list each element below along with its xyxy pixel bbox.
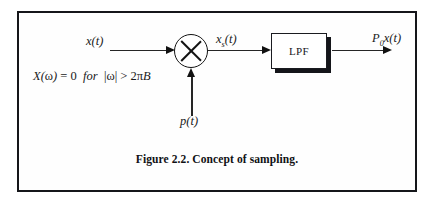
output-signal-label: P0x(t) xyxy=(372,32,401,48)
carrier-signal-label: p(t) xyxy=(180,115,198,128)
sampled-signal-label: xs(t) xyxy=(216,33,237,49)
condition-for: for xyxy=(83,69,98,83)
output-wire xyxy=(332,50,384,51)
input-signal-label: x(t) xyxy=(86,35,103,48)
output-signal-base: P xyxy=(372,31,380,45)
output-signal-tail: x(t) xyxy=(384,31,401,45)
condition-close-paren: ) xyxy=(53,69,57,83)
bandlimit-condition: X(ω) = 0 for |ω| > 2πB xyxy=(33,70,151,83)
mixer-to-lpf-wire xyxy=(208,50,263,51)
lpf-block: LPF xyxy=(271,33,327,69)
input-signal-text: x(t) xyxy=(86,34,103,48)
figure-page: LPF x(t) xs(t) P0x(t) p(t) X(ω) = 0 for … xyxy=(0,0,434,204)
mixer-to-lpf-arrowhead xyxy=(262,46,271,54)
carrier-arrowhead xyxy=(187,68,195,77)
condition-equals: = xyxy=(60,69,67,83)
condition-zero: 0 xyxy=(71,69,77,83)
lpf-label: LPF xyxy=(289,45,309,57)
condition-x-open: X( xyxy=(33,69,45,83)
input-wire xyxy=(110,50,167,51)
multiplier-mixer xyxy=(174,34,208,68)
figure-caption-text: Figure 2.2. Concept of sampling. xyxy=(136,153,298,165)
carrier-signal-text: p(t) xyxy=(180,114,198,128)
condition-greater-than: > xyxy=(120,69,127,83)
condition-abs-omega: ω xyxy=(106,69,114,83)
condition-omega: ω xyxy=(45,69,53,83)
condition-bandwidth: B xyxy=(143,69,151,83)
figure-caption: Figure 2.2. Concept of sampling. xyxy=(19,153,415,165)
figure-frame: LPF x(t) xs(t) P0x(t) p(t) X(ω) = 0 for … xyxy=(17,11,417,192)
lpf-block-body: LPF xyxy=(271,33,327,69)
sampled-signal-tail: (t) xyxy=(225,32,237,46)
condition-abs-close: | xyxy=(115,69,118,83)
carrier-wire xyxy=(191,75,193,116)
